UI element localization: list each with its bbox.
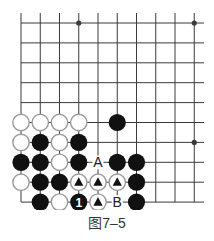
black-stone: [128, 194, 145, 211]
point-label-a: A: [93, 154, 103, 170]
white-stone: [13, 114, 29, 130]
board-grid: [21, 13, 204, 202]
black-stone: [109, 154, 126, 171]
black-stone: 1: [70, 194, 87, 211]
stones: 1: [12, 114, 145, 210]
figure-caption: 图7–5: [0, 212, 214, 232]
move-number: 1: [75, 196, 82, 210]
white-stone: [71, 114, 87, 130]
black-stone: [51, 174, 68, 191]
black-stone: [32, 194, 49, 211]
black-stone: [128, 174, 145, 191]
black-stone: [32, 154, 49, 171]
point-label-b: B: [113, 194, 122, 210]
black-stone: [70, 154, 87, 171]
white-stone: [32, 114, 48, 130]
go-board-diagram: AB 1: [0, 0, 214, 210]
black-stone: [32, 134, 49, 151]
star-point: [192, 140, 197, 145]
white-stone: [109, 174, 125, 190]
black-stone: [128, 154, 145, 171]
black-stone: [12, 154, 29, 171]
white-stone: [51, 134, 67, 150]
white-stone: [90, 174, 106, 190]
white-stone: [51, 114, 67, 130]
white-stone: [13, 134, 29, 150]
white-stone: [13, 174, 29, 190]
star-point: [192, 20, 197, 25]
star-point: [76, 20, 81, 25]
black-stone: [32, 174, 49, 191]
white-stone: [51, 154, 67, 170]
black-stone: [109, 114, 126, 131]
black-stone: [70, 134, 87, 151]
white-stone: [71, 174, 87, 190]
white-stone: [90, 194, 106, 210]
white-stone: [51, 194, 67, 210]
